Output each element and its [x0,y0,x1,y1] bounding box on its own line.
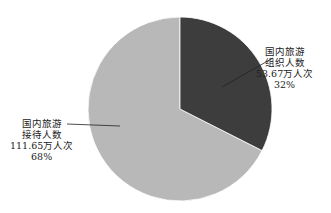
label-organized-line1: 国内旅游 [256,46,313,57]
label-organized-line2: 组织人数 [256,57,313,68]
label-organized-value: 53.67万人次 [256,68,313,79]
pie-chart [0,0,331,213]
label-received-line2: 接待人数 [10,129,73,140]
label-received: 国内旅游 接待人数 111.65万人次 68% [10,118,73,162]
label-received-value: 111.65万人次 [10,140,73,151]
label-organized: 国内旅游 组织人数 53.67万人次 32% [256,46,313,90]
label-organized-percent: 32% [256,79,313,90]
label-received-line1: 国内旅游 [10,118,73,129]
label-received-percent: 68% [10,151,73,162]
